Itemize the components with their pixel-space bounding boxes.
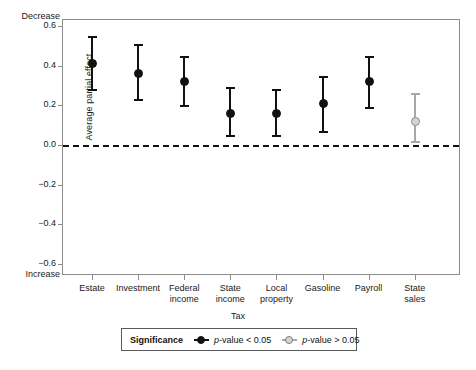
axis-note-increase: Increase: [25, 269, 60, 279]
y-tick-label: −0.6: [12, 258, 56, 268]
estimate-marker: [411, 117, 420, 126]
error-bar-cap-lower: [411, 141, 420, 143]
zero-reference-line: [63, 145, 459, 147]
x-tick-mark: [230, 275, 231, 280]
error-bar-cap-lower: [134, 99, 143, 101]
y-tick-mark: [58, 105, 63, 106]
legend-title: Significance: [130, 335, 183, 345]
y-tick-mark: [58, 224, 63, 225]
y-tick-mark: [58, 264, 63, 265]
x-tick-mark: [415, 275, 416, 280]
legend-entries: p-value < 0.05p-value > 0.05: [194, 335, 360, 345]
y-tick-label: 0.0: [12, 139, 56, 149]
x-tick-mark: [369, 275, 370, 280]
error-bar-cap-lower: [88, 89, 97, 91]
error-bar-cap-upper: [180, 56, 189, 58]
plot-area: [62, 19, 460, 275]
error-bar-cap-lower: [180, 105, 189, 107]
x-tick-label-line: sales: [380, 294, 450, 305]
x-tick-label-line: State: [380, 283, 450, 294]
error-bar-cap-lower: [365, 107, 374, 109]
x-axis-title: Tax: [0, 311, 476, 321]
error-bar-cap-lower: [319, 131, 328, 133]
x-tick-mark: [276, 275, 277, 280]
chart-figure: Decrease Increase Average partial effect…: [0, 0, 476, 370]
x-tick-mark: [184, 275, 185, 280]
error-bar-cap-upper: [365, 56, 374, 58]
x-tick-label-line: property: [241, 294, 311, 305]
y-tick-label: −0.4: [12, 218, 56, 228]
error-bar-cap-upper: [319, 76, 328, 78]
y-tick-label: 0.6: [12, 20, 56, 30]
error-bar-cap-lower: [226, 135, 235, 137]
legend-marker-icon: [194, 335, 209, 345]
y-tick-label: −0.2: [12, 179, 56, 189]
error-bar-cap-upper: [272, 89, 281, 91]
error-bar-cap-upper: [226, 87, 235, 89]
y-tick-mark: [58, 185, 63, 186]
y-axis-title: Average partial effect: [84, 2, 94, 192]
legend-entry-label: p-value < 0.05: [214, 335, 271, 345]
legend-marker-icon: [282, 335, 297, 345]
estimate-marker: [365, 77, 374, 86]
x-tick-mark: [138, 275, 139, 280]
x-tick-mark: [323, 275, 324, 280]
error-bar-cap-upper: [411, 93, 420, 95]
legend-entry: p-value > 0.05: [282, 335, 359, 345]
y-tick-label: 0.4: [12, 60, 56, 70]
x-tick-mark: [92, 275, 93, 280]
legend-entry: p-value < 0.05: [194, 335, 271, 345]
x-tick-label: Statesales: [380, 283, 450, 305]
y-tick-label: 0.2: [12, 99, 56, 109]
error-bar-cap-upper: [134, 44, 143, 46]
error-bar-cap-lower: [272, 135, 281, 137]
legend: Significance p-value < 0.05p-value > 0.0…: [121, 328, 357, 351]
legend-entry-label: p-value > 0.05: [302, 335, 359, 345]
y-tick-mark: [58, 66, 63, 67]
error-bar-cap-upper: [88, 36, 97, 38]
estimate-marker: [319, 99, 328, 108]
y-tick-mark: [58, 26, 63, 27]
